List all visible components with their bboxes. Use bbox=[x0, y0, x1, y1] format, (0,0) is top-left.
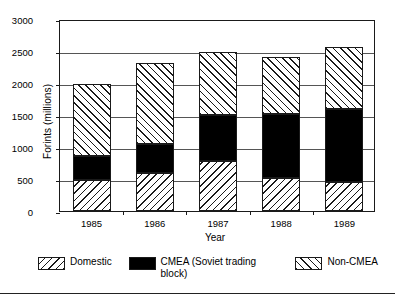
bar-segment-noncmea-1988 bbox=[262, 57, 300, 114]
x-tick-label-1988: 1988 bbox=[259, 218, 303, 229]
legend-swatch-cmea bbox=[129, 257, 156, 270]
plot-area: 050010001500200025003000 198519861987198… bbox=[59, 20, 375, 212]
bar-1986 bbox=[136, 63, 174, 211]
y-tick-mark bbox=[56, 117, 60, 118]
bar-segment-domestic-1989 bbox=[325, 182, 363, 211]
bar-segment-noncmea-1987 bbox=[199, 52, 237, 115]
y-tick-mark bbox=[56, 213, 60, 214]
footer-divider bbox=[0, 293, 395, 294]
bar-segment-cmea-1986 bbox=[136, 144, 174, 172]
bar-segment-domestic-1988 bbox=[262, 178, 300, 211]
x-tick-mark bbox=[123, 211, 124, 215]
x-tick-label-1987: 1987 bbox=[196, 218, 240, 229]
bar-1987 bbox=[199, 52, 237, 211]
chart-legend: Domestic CMEA (Soviet trading block) Non… bbox=[38, 256, 378, 290]
x-tick-mark bbox=[186, 211, 187, 215]
legend-label-domestic: Domestic bbox=[70, 256, 112, 268]
bar-segment-noncmea-1985 bbox=[73, 84, 111, 157]
bar-segment-noncmea-1989 bbox=[325, 47, 363, 109]
x-axis-label: Year bbox=[55, 232, 375, 243]
y-tick-label: 0 bbox=[0, 208, 33, 218]
bar-segment-cmea-1988 bbox=[262, 114, 300, 179]
bar-segment-domestic-1987 bbox=[199, 161, 237, 211]
legend-item-domestic: Domestic bbox=[38, 256, 112, 270]
bar-1988 bbox=[262, 57, 300, 211]
y-tick-label: 2500 bbox=[0, 48, 33, 58]
bar-segment-noncmea-1986 bbox=[136, 63, 174, 145]
x-tick-label-1986: 1986 bbox=[133, 218, 177, 229]
legend-item-cmea: CMEA (Soviet trading block) bbox=[129, 256, 279, 279]
bar-segment-domestic-1985 bbox=[73, 180, 111, 211]
bar-segment-cmea-1987 bbox=[199, 115, 237, 161]
y-tick-label: 1000 bbox=[0, 144, 33, 154]
legend-swatch-domestic bbox=[38, 257, 65, 270]
bar-segment-domestic-1986 bbox=[136, 173, 174, 211]
y-tick-mark bbox=[56, 53, 60, 54]
x-tick-mark bbox=[313, 211, 314, 215]
bar-segment-cmea-1989 bbox=[325, 109, 363, 183]
y-tick-label: 2000 bbox=[0, 80, 33, 90]
y-tick-label: 3000 bbox=[0, 16, 33, 26]
chart-figure: Forints (millions) 050010001500200025003… bbox=[0, 0, 395, 303]
x-tick-label-1985: 1985 bbox=[70, 218, 114, 229]
legend-label-non-cmea: Non-CMEA bbox=[327, 256, 378, 268]
y-tick-mark bbox=[56, 21, 60, 22]
bar-1985 bbox=[73, 84, 111, 211]
bar-segment-cmea-1985 bbox=[73, 156, 111, 180]
y-axis-label: Forints (millions) bbox=[42, 27, 53, 217]
legend-item-non-cmea: Non-CMEA bbox=[295, 256, 378, 270]
y-tick-label: 500 bbox=[0, 176, 33, 186]
legend-swatch-non-cmea bbox=[295, 257, 322, 270]
y-tick-mark bbox=[56, 85, 60, 86]
y-tick-mark bbox=[56, 149, 60, 150]
y-tick-label: 1500 bbox=[0, 112, 33, 122]
x-tick-mark bbox=[250, 211, 251, 215]
x-tick-label-1989: 1989 bbox=[322, 218, 366, 229]
y-tick-mark bbox=[56, 181, 60, 182]
legend-label-cmea: CMEA (Soviet trading block) bbox=[161, 256, 279, 279]
bar-1989 bbox=[325, 47, 363, 211]
